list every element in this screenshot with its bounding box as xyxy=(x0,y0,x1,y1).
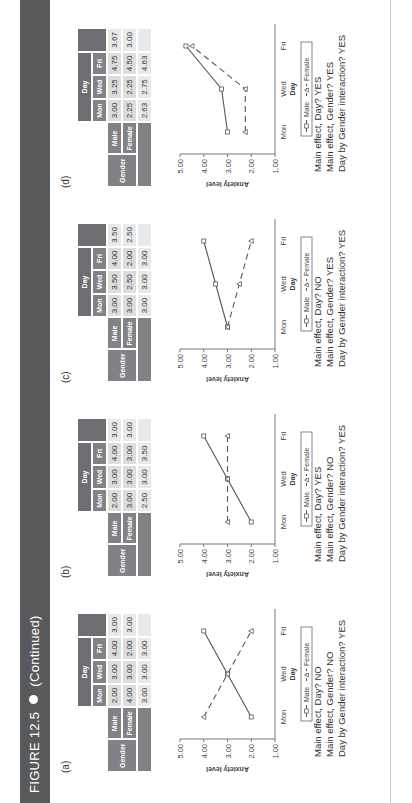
svg-text:Fri: Fri xyxy=(279,41,288,50)
day-header: Day xyxy=(78,443,91,512)
col-mean: 3.50 xyxy=(138,443,151,465)
col-fri: Fri xyxy=(93,248,106,270)
figure-panel-d: (d) Day Mon Wed Fri Gender Male 3.00 3.2… xyxy=(60,8,360,198)
effects-summary: Main effect, Day? YES Main effect, Gende… xyxy=(312,35,348,172)
panel-label: (d) xyxy=(60,176,71,188)
effect-gender: Main effect, Gender? NO xyxy=(324,620,336,757)
day-header: Day xyxy=(78,638,91,707)
svg-text:Female: Female xyxy=(303,448,310,471)
chart-svg: 5.004.003.002.001.00Anxiety levelMonWedF… xyxy=(170,208,300,383)
svg-text:Female: Female xyxy=(303,58,310,81)
col-mean: 2.63 xyxy=(138,100,151,122)
svg-text:Mon: Mon xyxy=(279,710,288,725)
col-mean: 3.00 xyxy=(138,661,151,683)
svg-text:3.00: 3.00 xyxy=(224,744,233,759)
cell: 4.00 xyxy=(108,638,121,660)
col-fri: Fri xyxy=(93,638,106,660)
cell: 3.00 xyxy=(108,100,121,122)
svg-text:2.00: 2.00 xyxy=(247,159,256,174)
col-mean: 3.00 xyxy=(138,271,151,293)
col-mon: Mon xyxy=(93,490,106,512)
effect-day: Main effect, Day? YES xyxy=(312,425,324,562)
cell: 3.00 xyxy=(108,466,121,488)
cell: 3.25 xyxy=(108,76,121,98)
effect-gender: Main effect, Gender? NO xyxy=(324,425,336,562)
means-table: Day Mon Wed Fri Gender Male 3.00 3.25 4.… xyxy=(76,27,153,188)
cell: 3.00 xyxy=(123,466,136,488)
col-mean: 3.00 xyxy=(138,685,151,707)
svg-text:1.00: 1.00 xyxy=(271,159,280,174)
cell: 2.00 xyxy=(123,638,136,660)
effect-interaction: Day by Gender interaction? YES xyxy=(336,425,348,562)
gender-header: Gender xyxy=(108,155,136,186)
row-female: Female xyxy=(123,513,136,543)
figure-note: (Continued) xyxy=(27,615,42,686)
blank-cell xyxy=(138,224,151,246)
col-wed: Wed xyxy=(93,466,106,488)
row-female: Female xyxy=(123,123,136,153)
figure-panel-a: (a) Day Mon Wed Fri Gender Male 2.00 3.0… xyxy=(60,593,360,783)
cell: 3.00 xyxy=(123,443,136,465)
row-female: Female xyxy=(123,708,136,738)
line-chart: 5.004.003.002.001.00Anxiety levelMonWedF… xyxy=(170,403,300,578)
svg-text:1.00: 1.00 xyxy=(271,744,280,759)
svg-text:Fri: Fri xyxy=(279,236,288,245)
cell: 4.00 xyxy=(123,685,136,707)
cell: 3.00 xyxy=(108,661,121,683)
col-mon: Mon xyxy=(93,295,106,317)
row-mean: 3.50 xyxy=(108,224,121,246)
svg-text:Male: Male xyxy=(303,297,310,312)
svg-text:Mon: Mon xyxy=(279,515,288,530)
svg-text:4.00: 4.00 xyxy=(200,354,209,369)
svg-text:Female: Female xyxy=(303,643,310,666)
cell: 2.50 xyxy=(123,271,136,293)
col-mean: 2.50 xyxy=(138,490,151,512)
cell: 2.00 xyxy=(123,248,136,270)
svg-text:Anxiety level: Anxiety level xyxy=(206,570,249,578)
svg-text:Fri: Fri xyxy=(279,626,288,635)
svg-text:1.00: 1.00 xyxy=(271,354,280,369)
col-mean: 3.00 xyxy=(138,638,151,660)
effect-gender: Main effect, Gender? YES xyxy=(324,35,336,172)
means-table: Day Mon Wed Fri Gender Male 2.00 3.00 4.… xyxy=(76,417,153,578)
cell: 2.00 xyxy=(108,685,121,707)
gender-header: Gender xyxy=(108,740,136,771)
svg-text:Mon: Mon xyxy=(279,320,288,335)
svg-text:Fri: Fri xyxy=(279,431,288,440)
col-wed: Wed xyxy=(93,76,106,98)
blank-cell xyxy=(138,29,151,51)
means-table: Day Mon Wed Fri Gender Male 2.00 3.00 4.… xyxy=(76,612,153,773)
svg-text:3.00: 3.00 xyxy=(224,354,233,369)
svg-text:Day: Day xyxy=(289,82,297,95)
day-header: Day xyxy=(78,248,91,317)
chart-svg: 5.004.003.002.001.00Anxiety levelMonWedF… xyxy=(170,403,300,578)
row-mean: 3.00 xyxy=(108,614,121,636)
col-mon: Mon xyxy=(93,100,106,122)
svg-text:4.00: 4.00 xyxy=(200,744,209,759)
svg-text:Female: Female xyxy=(303,253,310,276)
svg-text:4.00: 4.00 xyxy=(200,159,209,174)
row-female: Female xyxy=(123,318,136,348)
cell: 4.00 xyxy=(108,443,121,465)
cell: 2.25 xyxy=(123,76,136,98)
effect-gender: Main effect, Gender? YES xyxy=(324,230,336,367)
cell: 2.00 xyxy=(108,490,121,512)
row-male: Male xyxy=(108,318,121,348)
effect-interaction: Day by Gender interaction? YES xyxy=(336,230,348,367)
cell: 4.00 xyxy=(108,248,121,270)
cell: 4.75 xyxy=(108,53,121,75)
gender-header: Gender xyxy=(108,350,136,381)
svg-text:2.00: 2.00 xyxy=(247,354,256,369)
day-header: Day xyxy=(78,53,91,122)
svg-text:Anxiety level: Anxiety level xyxy=(206,375,249,383)
figure-title: FIGURE 12.5(Continued) xyxy=(27,615,42,793)
chart-svg: 5.004.003.002.001.00Anxiety levelMonWedF… xyxy=(170,13,300,188)
blank-cell xyxy=(138,614,151,636)
line-chart: 5.004.003.002.001.00Anxiety levelMonWedF… xyxy=(170,13,300,188)
panel-label: (c) xyxy=(60,371,71,383)
svg-text:Day: Day xyxy=(289,667,297,680)
row-male: Male xyxy=(108,123,121,153)
col-mean: 3.00 xyxy=(138,295,151,317)
effects-summary: Main effect, Day? YES Main effect, Gende… xyxy=(312,425,348,562)
line-chart: 5.004.003.002.001.00Anxiety levelMonWedF… xyxy=(170,208,300,383)
